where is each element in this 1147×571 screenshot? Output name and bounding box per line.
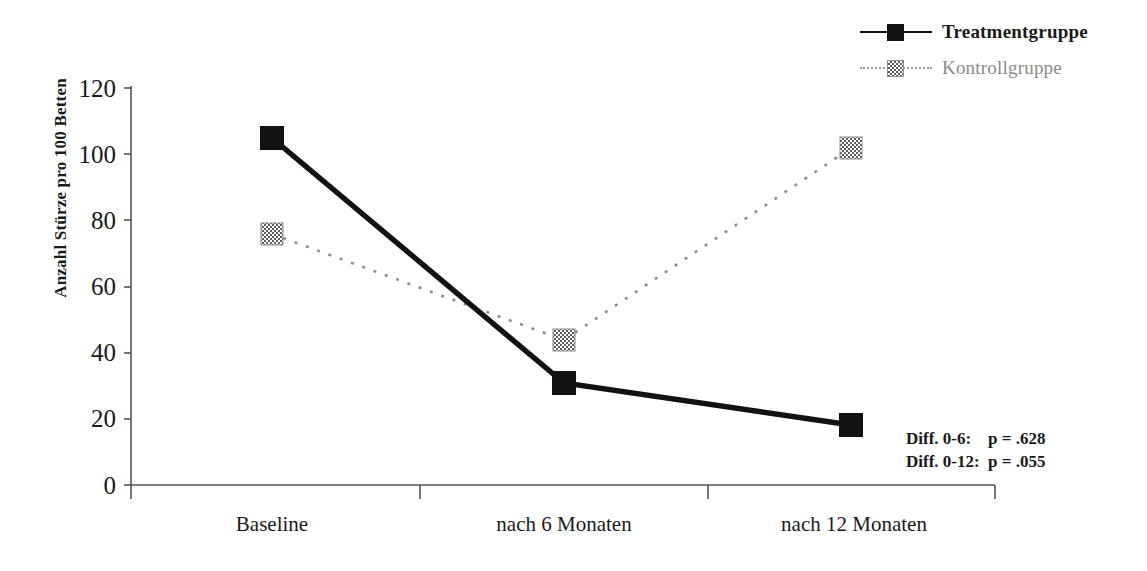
series-markers-kontrollgruppe <box>261 137 862 351</box>
significance-annotations: Diff. 0-6:p = .628 Diff. 0-12:p = .055 <box>906 428 1045 474</box>
y-axis-ticks <box>124 88 131 485</box>
x-axis-ticks <box>131 485 995 499</box>
data-point-kontrollgruppe-baseline <box>261 223 283 245</box>
annotation-value-diff-0-6: p = .628 <box>988 429 1045 448</box>
series-markers-treatmentgruppe <box>260 126 863 437</box>
data-point-kontrollgruppe-12-monate <box>840 137 862 159</box>
annotation-label-diff-0-6: Diff. 0-6: <box>906 428 988 451</box>
annotation-value-diff-0-12: p = .055 <box>988 452 1045 471</box>
annotation-label-diff-0-12: Diff. 0-12: <box>906 451 988 474</box>
data-point-treatmentgruppe-6-monate <box>552 371 576 395</box>
series-line-kontrollgruppe <box>272 148 851 340</box>
annotation-row-diff-0-12: Diff. 0-12:p = .055 <box>906 451 1045 474</box>
plot-area <box>0 0 1147 571</box>
annotation-row-diff-0-6: Diff. 0-6:p = .628 <box>906 428 1045 451</box>
data-point-treatmentgruppe-baseline <box>260 126 284 150</box>
chart-page: Treatmentgruppe Kontrollgruppe Anzahl St… <box>0 0 1147 571</box>
data-point-kontrollgruppe-6-monate <box>553 329 575 351</box>
data-point-treatmentgruppe-12-monate <box>839 413 863 437</box>
